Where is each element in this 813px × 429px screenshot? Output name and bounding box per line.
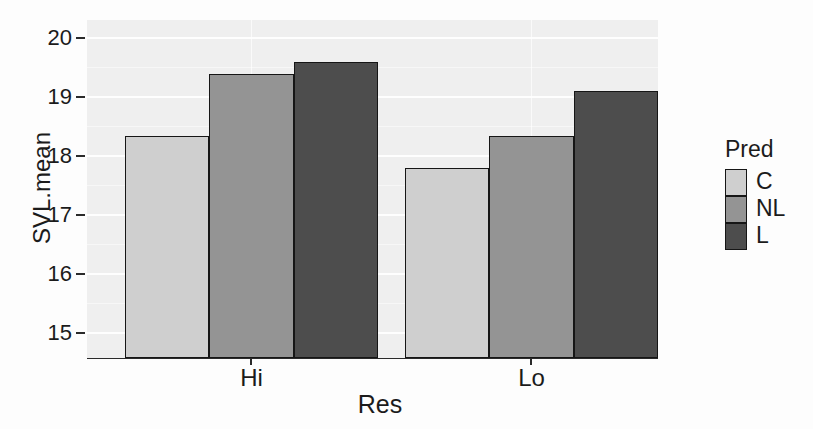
legend-item-label: NL [756,195,785,222]
y-tick-mark [76,96,85,98]
legend-item-label: L [756,222,769,249]
legend-items: CNLL [725,168,785,249]
legend-item-c: C [725,168,785,195]
y-tick-label: 16 [0,260,72,288]
y-tick-mark [76,155,85,157]
y-tick-label: 15 [0,319,72,347]
x-tick-label-hi: Hi [240,364,263,392]
legend: Pred CNLL [725,137,785,249]
y-tick-mark [76,273,85,275]
y-tick-mark [76,214,85,216]
gridline-major [87,37,658,39]
bar-hi-l [294,62,378,358]
x-tick-label-lo: Lo [518,364,545,392]
bar-hi-c [125,136,209,358]
x-axis-line [87,358,658,360]
bar-lo-l [574,91,658,358]
legend-item-nl: NL [725,195,785,222]
y-tick-label: 20 [0,24,72,52]
y-tick-mark [76,37,85,39]
bar-lo-nl [489,136,573,358]
legend-title: Pred [725,137,785,162]
y-tick-mark [76,332,85,334]
y-tick-label: 18 [0,142,72,170]
legend-key-c-swatch [725,169,747,196]
legend-key-l-swatch [725,223,747,250]
legend-item-label: C [756,168,773,195]
bar-chart-figure: SVL.mean 151617181920 HiLo Res Pred CNLL [0,0,813,429]
plot-panel [87,20,658,358]
legend-item-l: L [725,222,785,249]
y-tick-label: 19 [0,83,72,111]
bar-hi-nl [209,74,293,358]
legend-key-nl-swatch [725,196,747,223]
x-axis-title: Res [358,390,402,418]
y-tick-label: 17 [0,201,72,229]
bar-lo-c [405,168,489,358]
